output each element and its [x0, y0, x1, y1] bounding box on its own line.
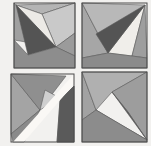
panel-top-left	[14, 3, 75, 68]
geometric-panels-svg	[0, 0, 151, 146]
panel-top-right	[82, 3, 147, 68]
artwork-canvas	[0, 0, 151, 146]
